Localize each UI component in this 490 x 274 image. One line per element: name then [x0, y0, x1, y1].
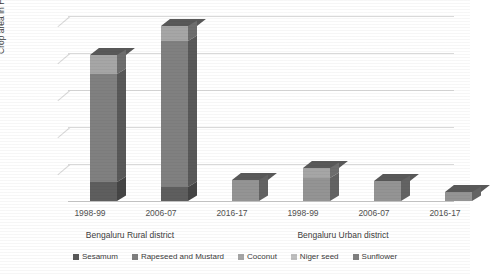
legend-swatch-icon [132, 254, 138, 260]
legend-item-coconut: Coconut [238, 252, 277, 261]
bar-segment-sesamum [161, 187, 188, 201]
legend-label: Sunflower [362, 252, 398, 261]
bar-rural-2016-17 [232, 180, 259, 201]
group-label-rural: Bengaluru Rural district [30, 230, 230, 240]
bar-urban-2016-17 [445, 192, 472, 201]
bar-segment-rapeseed [90, 74, 117, 182]
bar-segment-rapeseed [445, 192, 472, 201]
bar-segment-rapeseed [232, 180, 259, 201]
bar-segment-rapeseed [374, 181, 401, 201]
legend-swatch-icon [353, 254, 359, 260]
chart-legend: Sesamum Rapeseed and Mustard Coconut Nig… [0, 252, 470, 261]
legend-swatch-icon [73, 254, 79, 260]
legend-item-niger-seed: Niger seed [291, 252, 339, 261]
group-label-urban: Bengaluru Urban district [243, 230, 443, 240]
bar-segment-rapeseed [303, 178, 330, 201]
bar-urban-2006-07 [374, 181, 401, 201]
x-axis-tick-0: 1998-99 [58, 208, 122, 218]
x-axis-tick-2: 2016-17 [200, 208, 264, 218]
legend-label: Coconut [247, 252, 277, 261]
legend-label: Sesamum [82, 252, 118, 261]
legend-item-rapeseed-and-mustard: Rapeseed and Mustard [132, 252, 224, 261]
x-axis-tick-3: 1998-99 [271, 208, 335, 218]
legend-swatch-icon [291, 254, 297, 260]
bar-segment-coconut [303, 168, 330, 178]
bar-urban-1998-99 [303, 168, 330, 201]
x-axis-tick-5: 2016-17 [413, 208, 477, 218]
legend-item-sesamum: Sesamum [73, 252, 118, 261]
bar-segment-coconut [90, 55, 117, 74]
bar-group-container [68, 16, 454, 201]
x-axis-baseline [68, 201, 454, 202]
plot-area [68, 16, 454, 201]
legend-item-sunflower: Sunflower [353, 252, 398, 261]
bar-segment-coconut [161, 26, 188, 41]
legend-label: Rapeseed and Mustard [141, 252, 224, 261]
bar-segment-rapeseed [161, 41, 188, 187]
bar-rural-2006-07 [161, 26, 188, 201]
bar-rural-1998-99 [90, 55, 117, 201]
x-axis-tick-1: 2006-07 [129, 208, 193, 218]
bar-segment-sesamum [90, 182, 117, 201]
legend-label: Niger seed [300, 252, 339, 261]
x-axis-tick-4: 2006-07 [342, 208, 406, 218]
legend-swatch-icon [238, 254, 244, 260]
y-axis-title: Crop area in Ha [0, 0, 6, 54]
